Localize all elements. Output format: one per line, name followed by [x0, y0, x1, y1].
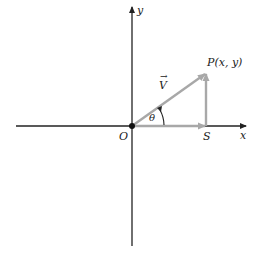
angle-arc: [160, 110, 164, 125]
vector-v: [132, 74, 205, 126]
diagram-svg: [0, 0, 267, 268]
vector-label: V: [159, 80, 167, 91]
y-axis-label: y: [137, 5, 143, 16]
x-axis-label: x: [240, 130, 246, 141]
point-s-label: S: [203, 131, 211, 142]
diagram-canvas: y x O S P(x, y) → V θ: [0, 0, 267, 268]
point-p-label: P(x, y): [207, 57, 242, 68]
origin-dot: [129, 123, 135, 129]
angle-label: θ: [149, 113, 155, 123]
origin-label: O: [119, 131, 128, 142]
